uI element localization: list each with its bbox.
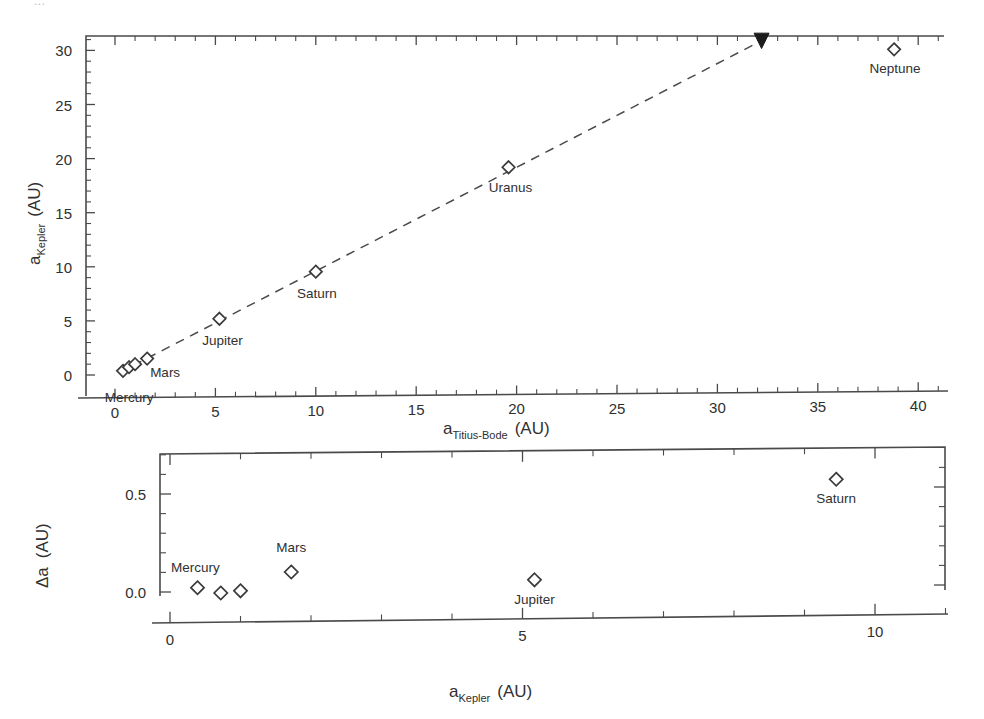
- bottom-panel-bottom-axis: [152, 614, 948, 623]
- data-point-marker: [214, 586, 227, 599]
- data-point-marker: [213, 313, 225, 325]
- data-point-label: Mercury: [105, 390, 154, 405]
- by-title-base: Δa: [33, 567, 52, 588]
- data-point-marker: [528, 573, 541, 586]
- x-tick-label: 40: [910, 397, 927, 414]
- y-tick-label: 0: [64, 367, 72, 384]
- bottom-panel-y-tick-labels: 0.00.5: [125, 486, 146, 601]
- data-point-marker: [888, 43, 900, 55]
- data-point-label: Jupiter: [202, 333, 243, 348]
- figure-container: ... 0510152025303540 051015202530 Mercur…: [0, 0, 984, 719]
- top-panel-y-tick-labels: 051015202530: [55, 42, 72, 384]
- top-panel-y-ticks: [86, 40, 95, 375]
- x-tick-label: 20: [508, 400, 525, 417]
- data-point-marker: [191, 581, 204, 594]
- bottom-panel-frame: [160, 447, 945, 596]
- scan-bleed-text: ...: [34, 0, 45, 9]
- data-point-marker: [310, 265, 322, 277]
- x-tick-label: 0: [111, 404, 119, 421]
- bottom-panel-x-ticks: [170, 604, 946, 623]
- bottom-panel-right-ticks: [934, 467, 945, 585]
- y-tick-label: 10: [55, 259, 72, 276]
- x-tick-label: 5: [518, 627, 526, 644]
- x-tick-label: 10: [867, 623, 884, 640]
- y-tick-label: 30: [55, 42, 72, 59]
- data-point-label: Neptune: [870, 61, 921, 76]
- data-point-marker: [830, 473, 843, 486]
- top-panel-top-ticks: [115, 36, 938, 45]
- x-title-unit: (AU): [515, 419, 550, 438]
- top-panel-point-labels: MercuryMarsJupiterSaturnUranusNeptune: [105, 61, 921, 404]
- top-panel-data-points: [117, 43, 900, 377]
- y-tick-label: 20: [55, 151, 72, 168]
- y-tick-label: 15: [55, 205, 72, 222]
- bx-title-unit: (AU): [497, 682, 532, 701]
- bottom-panel-data-points: [191, 473, 843, 600]
- data-point-marker: [285, 565, 298, 578]
- x-tick-label: 35: [809, 398, 826, 415]
- bottom-panel: 0510 0.00.5 MercuryMarsJupiterSaturn aKe…: [33, 447, 948, 704]
- y-title-unit: (AU): [25, 182, 44, 217]
- two-panel-scatter-figure: 0510152025303540 051015202530 MercuryMar…: [0, 0, 984, 719]
- data-point-label: Saturn: [816, 491, 856, 506]
- data-point-marker: [141, 352, 153, 364]
- top-panel: 0510152025303540 051015202530 MercuryMar…: [25, 33, 948, 441]
- data-point-label: Saturn: [297, 286, 337, 301]
- data-point-label: Jupiter: [514, 592, 555, 607]
- top-panel-bottom-axis: [78, 391, 948, 398]
- x-tick-label: 30: [709, 399, 726, 416]
- x-tick-label: 0: [166, 631, 174, 648]
- top-panel-x-ticks: [115, 382, 938, 397]
- data-point-label: Mars: [150, 365, 180, 380]
- x-title-sub: Titius-Bode: [452, 429, 507, 441]
- bottom-panel-point-labels: MercuryMarsJupiterSaturn: [171, 491, 856, 607]
- by-title-unit: (AU): [33, 523, 52, 558]
- top-panel-y-axis-title: aKepler(AU): [25, 182, 47, 265]
- data-point-label: Uranus: [489, 180, 533, 195]
- data-point-marker: [234, 584, 247, 597]
- y-tick-label: 25: [55, 97, 72, 114]
- bx-title-sub: Kepler: [458, 692, 490, 704]
- x-tick-label: 25: [609, 400, 626, 417]
- y-tick-label: 0.0: [125, 584, 146, 601]
- data-point-label: Mercury: [171, 560, 220, 575]
- top-panel-x-tick-labels: 0510152025303540: [111, 397, 927, 420]
- x-tick-label: 10: [307, 402, 324, 419]
- y-title-sub: Kepler: [35, 223, 47, 255]
- y-tick-label: 0.5: [125, 486, 146, 503]
- bottom-panel-x-tick-labels: 0510: [166, 623, 884, 648]
- top-panel-x-axis-title: aTitius-Bode(AU): [443, 419, 550, 441]
- bottom-panel-y-ticks: [160, 455, 171, 592]
- data-point-label: Mars: [276, 540, 306, 555]
- trend-endpoint-triangle-marker: [754, 33, 769, 48]
- bottom-panel-x-axis-title: aKepler(AU): [449, 682, 532, 704]
- y-tick-label: 5: [64, 313, 72, 330]
- data-point-marker: [502, 161, 514, 173]
- x-tick-label: 5: [211, 403, 219, 420]
- bottom-panel-y-axis-title: Δa(AU): [33, 523, 52, 588]
- x-tick-label: 15: [408, 401, 425, 418]
- trend-line-dashed: [119, 41, 762, 373]
